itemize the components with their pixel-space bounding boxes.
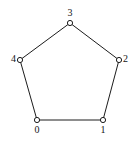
graph-edge-3-4 [20, 23, 70, 60]
graph-node-label-0: 0 [35, 125, 40, 135]
graph-figure: 01234 [0, 0, 139, 144]
graph-edge-2-3 [70, 23, 119, 60]
graph-node-0[interactable] [34, 117, 39, 122]
graph-node-label-4: 4 [11, 54, 16, 64]
graph-node-1[interactable] [100, 117, 105, 122]
graph-node-3[interactable] [67, 20, 72, 25]
graph-edge-4-0 [20, 60, 37, 120]
graph-node-label-3: 3 [68, 8, 73, 18]
graph-node-label-1: 1 [101, 125, 106, 135]
graph-node-2[interactable] [116, 57, 121, 62]
graph-edge-1-2 [103, 60, 119, 120]
graph-node-label-2: 2 [123, 54, 128, 64]
graph-node-4[interactable] [17, 57, 22, 62]
edge-layer [20, 23, 119, 120]
graph-canvas [0, 0, 139, 144]
